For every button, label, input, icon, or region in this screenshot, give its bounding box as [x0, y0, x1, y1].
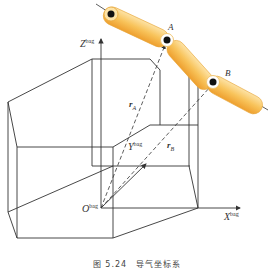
z-axis-label: Zbag [80, 38, 94, 49]
airbag-tube [96, 4, 268, 117]
origin-label: Obag [82, 203, 98, 214]
point-a-label: A [168, 23, 174, 32]
vector-a-label: rA [129, 100, 136, 111]
point-b-label: B [225, 69, 231, 78]
joint-a [164, 37, 171, 44]
vector-r-a [101, 45, 165, 208]
y-axis-label: Ybag [128, 141, 142, 152]
y-axis [101, 164, 146, 208]
joint-b [210, 79, 217, 86]
axes [101, 39, 240, 208]
x-axis-label: Xbag [224, 211, 239, 222]
vector-b-label: rB [167, 141, 174, 152]
figure-caption: 图 5.24 导气坐标系 [0, 258, 274, 269]
